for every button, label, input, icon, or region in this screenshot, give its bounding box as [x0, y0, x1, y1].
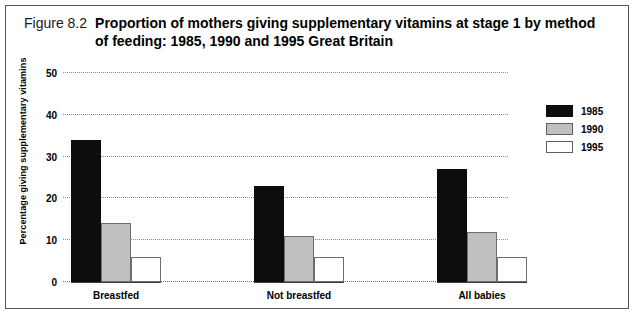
legend-label-1990: 1990: [581, 124, 603, 135]
y-tick-label-10: 10: [46, 235, 57, 246]
bar-1985-all-babies[interactable]: [437, 169, 467, 282]
legend-label-1995: 1995: [581, 142, 603, 153]
legend-swatch-1995: [546, 141, 573, 153]
legend-label-1985: 1985: [581, 106, 603, 117]
bar-1990-all-babies[interactable]: [467, 232, 497, 282]
y-tick-label-0: 0: [51, 277, 57, 288]
bar-1990-breastfed[interactable]: [101, 223, 131, 282]
bar-group-all-babies: All babies: [437, 73, 527, 282]
bar-1995-not-breastfed[interactable]: [314, 257, 344, 282]
legend-item-1995[interactable]: 1995: [546, 139, 603, 155]
chart-container: Percentage giving supplementary vitamins…: [6, 6, 630, 310]
x-tick-label-not-breastfed: Not breastfed: [239, 290, 359, 301]
y-tick-label-30: 30: [46, 151, 57, 162]
bar-group-not-breastfed: Not breastfed: [254, 73, 344, 282]
legend-item-1990[interactable]: 1990: [546, 121, 603, 137]
legend-swatch-1990: [546, 123, 573, 135]
bar-1995-all-babies[interactable]: [497, 257, 527, 282]
bar-1985-breastfed[interactable]: [71, 140, 101, 282]
x-tick-label-breastfed: Breastfed: [56, 290, 176, 301]
bar-1985-not-breastfed[interactable]: [254, 186, 284, 282]
bar-1990-not-breastfed[interactable]: [284, 236, 314, 282]
y-tick-label-50: 50: [46, 68, 57, 79]
axis-baseline-segment: [254, 282, 344, 283]
y-tick-label-40: 40: [46, 109, 57, 120]
bar-group-breastfed: Breastfed: [71, 73, 161, 282]
bar-1995-breastfed[interactable]: [131, 257, 161, 282]
legend-swatch-1985: [546, 105, 573, 117]
axis-baseline-segment: [71, 282, 161, 283]
legend-item-1985[interactable]: 1985: [546, 103, 603, 119]
chart-legend: 198519901995: [546, 103, 603, 157]
y-axis-title: Percentage giving supplementary vitamins: [18, 46, 28, 256]
figure-frame: Figure 8.2 Proportion of mothers giving …: [5, 5, 629, 309]
x-tick-label-all-babies: All babies: [422, 290, 542, 301]
y-tick-label-20: 20: [46, 193, 57, 204]
plot-area: 01020304050 BreastfedNot breastfedAll ba…: [63, 73, 508, 282]
axis-baseline-segment: [437, 282, 527, 283]
